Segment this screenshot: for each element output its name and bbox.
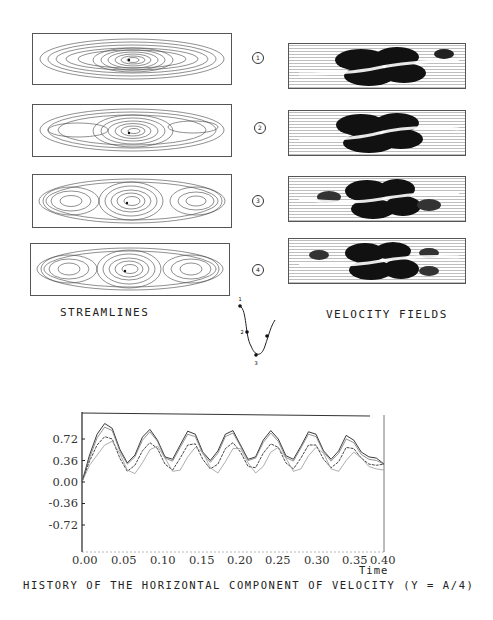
y-tick: -0.36 <box>38 496 78 510</box>
x-axis-label: Time <box>359 564 388 576</box>
chart-caption: HISTORY OF THE HORIZONTAL COMPONENT OF V… <box>23 579 475 591</box>
x-tick: 0.10 <box>150 553 176 567</box>
y-tick: 0.72 <box>38 432 78 446</box>
x-tick: 0.30 <box>304 553 330 567</box>
y-tick: 0.36 <box>38 454 78 468</box>
y-tick: 0.00 <box>38 475 78 489</box>
x-tick: 0.05 <box>111 553 137 567</box>
x-tick: 0.25 <box>265 553 291 567</box>
series-line-middle <box>82 437 384 482</box>
x-tick: 0.00 <box>72 553 98 567</box>
x-tick: 0.15 <box>189 553 215 567</box>
series-line-lower <box>82 441 384 482</box>
x-tick: 0.20 <box>227 553 253 567</box>
y-tick: -0.72 <box>38 518 78 532</box>
series-line-upper-2 <box>82 427 384 482</box>
